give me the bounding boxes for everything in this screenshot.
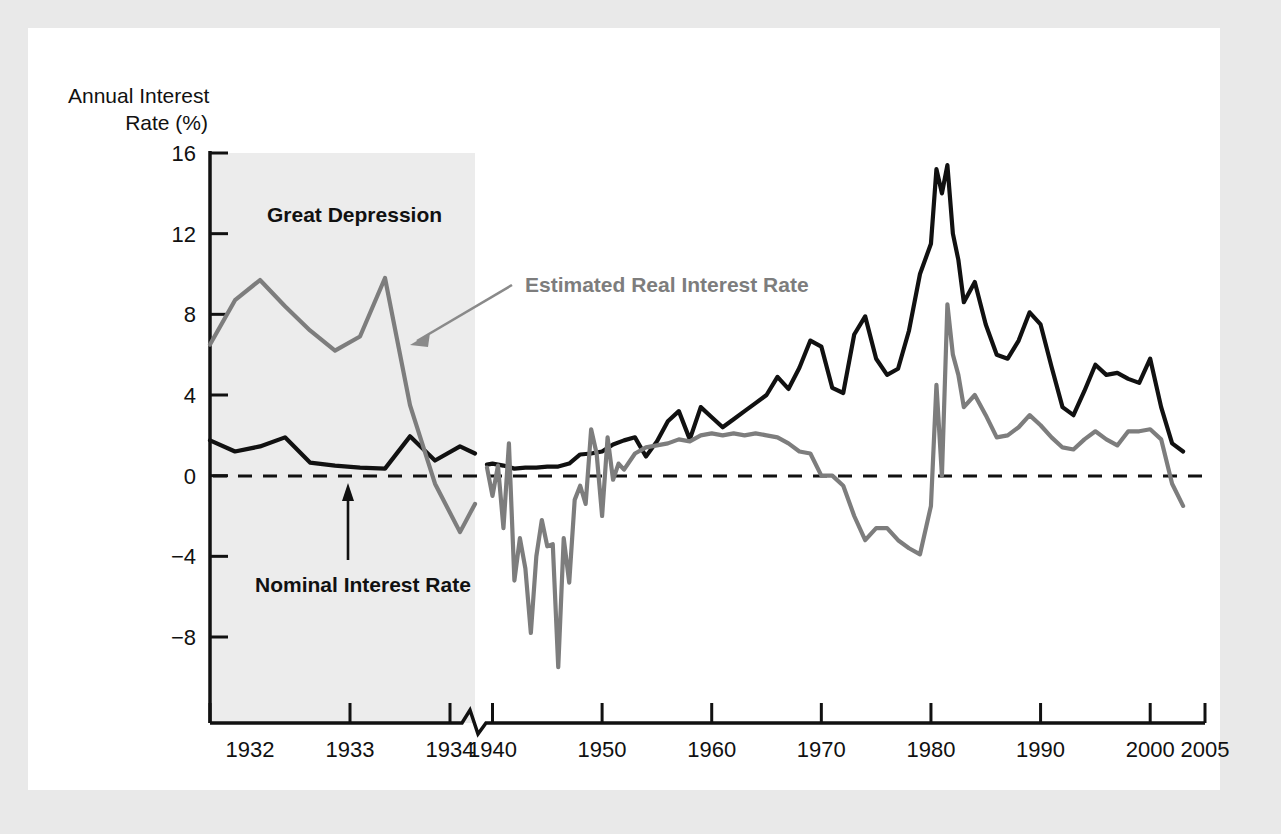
x-tick-label: 1960 — [687, 737, 736, 762]
x-tick-label: 2000 — [1126, 737, 1175, 762]
annotation-great-depression: Great Depression — [267, 203, 442, 226]
x-tick-label: 1970 — [797, 737, 846, 762]
annotation-nominal-interest-rate: Nominal Interest Rate — [255, 573, 471, 596]
y-tick-label: −4 — [171, 544, 196, 569]
x-tick-label: 1932 — [226, 737, 275, 762]
x-tick-label: 2005 — [1181, 737, 1230, 762]
great-depression-shaded-region — [210, 153, 475, 723]
x-tick-label: 1990 — [1016, 737, 1065, 762]
x-tick-label: 1980 — [906, 737, 955, 762]
y-tick-label: 0 — [184, 464, 196, 489]
y-axis-title-line1: Annual Interest — [68, 84, 209, 107]
y-tick-label: 4 — [184, 383, 196, 408]
x-tick-label: 1933 — [326, 737, 375, 762]
series-line-estimated-real-interest-rate-modern — [487, 304, 1183, 667]
interest-rate-chart: 1612840−4−8 1932193319341940195019601970… — [0, 0, 1281, 834]
y-tick-label: 16 — [172, 141, 196, 166]
figure-page: 1612840−4−8 1932193319341940195019601970… — [0, 0, 1281, 834]
y-tick-label: 12 — [172, 222, 196, 247]
y-axis-title-line2: Rate (%) — [125, 111, 208, 134]
annotation-estimated-real-interest-rate: Estimated Real Interest Rate — [525, 273, 809, 296]
y-tick-label: 8 — [184, 302, 196, 327]
x-tick-label: 1950 — [578, 737, 627, 762]
series-line-nominal-interest-rate-modern — [487, 165, 1183, 469]
y-tick-label: −8 — [171, 625, 196, 650]
x-tick-label: 1940 — [468, 737, 517, 762]
